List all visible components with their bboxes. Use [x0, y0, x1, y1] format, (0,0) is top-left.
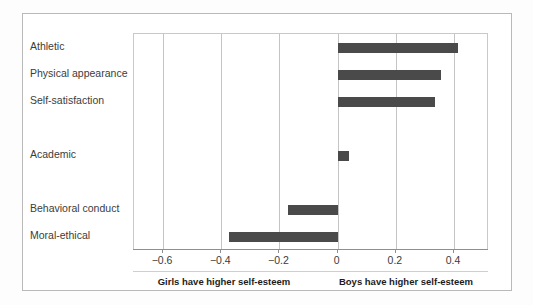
chart-figure: −0.6−0.4−0.200.20.4 AthleticPhysical app…: [0, 0, 533, 305]
plot-area: [133, 33, 488, 250]
category-label-self-satisfaction: Self-satisfaction: [30, 94, 104, 106]
tick-label-5: 0.4: [433, 254, 473, 266]
tick-label-2: −0.2: [258, 254, 298, 266]
tick-mark-0: [162, 249, 163, 253]
bar-self-satisfaction: [338, 97, 435, 107]
gridline-x-5: [454, 34, 455, 249]
bar-moral-ethical: [229, 232, 338, 242]
tick-mark-1: [220, 249, 221, 253]
category-label-academic: Academic: [30, 148, 76, 160]
gridline-x-1: [221, 34, 222, 249]
category-label-moral-ethical: Moral-ethical: [30, 229, 90, 241]
bar-academic: [338, 151, 350, 161]
tick-label-1: −0.4: [200, 254, 240, 266]
category-label-athletic: Athletic: [30, 40, 64, 52]
category-axis-labels: AthleticPhysical appearanceSelf-satisfac…: [30, 0, 128, 305]
caption-girls-higher: Girls have higher self-esteem: [136, 276, 312, 287]
gridline-x-2: [279, 34, 280, 249]
tick-mark-3: [337, 249, 338, 253]
tick-mark-2: [278, 249, 279, 253]
bar-behavioral-conduct: [288, 205, 337, 215]
tick-mark-4: [395, 249, 396, 253]
tick-mark-5: [453, 249, 454, 253]
category-label-physical-appearance: Physical appearance: [30, 67, 127, 79]
tick-label-3: 0: [317, 254, 357, 266]
tick-label-4: 0.2: [375, 254, 415, 266]
bar-athletic: [338, 43, 459, 53]
gridline-x-0: [163, 34, 164, 249]
gridline-x-3: [338, 34, 339, 249]
caption-boys-higher: Boys have higher self-esteem: [318, 276, 494, 287]
tick-label-0: −0.6: [142, 254, 182, 266]
gridline-x-4: [396, 34, 397, 249]
caption-divider: [133, 271, 488, 272]
category-label-behavioral-conduct: Behavioral conduct: [30, 202, 119, 214]
x-axis-line: [133, 249, 488, 250]
bar-physical-appearance: [338, 70, 441, 80]
